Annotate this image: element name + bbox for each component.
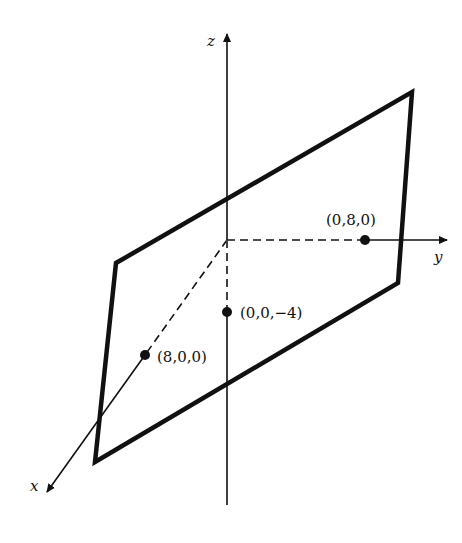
label-point-y: (0,8,0) <box>326 211 376 229</box>
x-axis-hidden <box>145 240 227 355</box>
point-z <box>222 307 232 317</box>
point-y <box>360 235 370 245</box>
label-point-z: (0,0,−4) <box>240 304 302 322</box>
plane-diagram: (8,0,0) (0,8,0) (0,0,−4) z y x <box>0 0 462 543</box>
label-z-axis: z <box>206 32 215 50</box>
x-axis <box>47 355 145 492</box>
label-x-axis: x <box>30 477 39 495</box>
point-x <box>140 350 150 360</box>
label-y-axis: y <box>433 248 443 266</box>
plane <box>95 92 412 462</box>
label-point-x: (8,0,0) <box>157 348 207 366</box>
